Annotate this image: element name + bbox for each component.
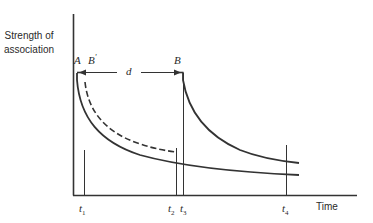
label-b-prime-mark: ' xyxy=(95,53,97,62)
curve-b-prime xyxy=(85,82,176,152)
t3-label: t3 xyxy=(180,202,187,214)
label-d: d xyxy=(126,65,132,77)
t1-label: t1 xyxy=(79,202,86,214)
t2-sub: 2 xyxy=(171,209,175,217)
y-axis-label-line1: Strength of xyxy=(4,29,54,43)
curve-b xyxy=(183,73,299,164)
label-b-prime: B' xyxy=(88,54,96,66)
forgetting-curve-diagram: Strength of association A B' B d t1 t2 t… xyxy=(0,0,373,223)
t4-sub: 4 xyxy=(285,209,289,217)
label-b: B xyxy=(174,54,181,66)
t1-sub: 1 xyxy=(82,209,86,217)
y-axis-label-line2: association xyxy=(4,43,54,57)
y-axis-label: Strength of association xyxy=(4,29,54,57)
diagram-graphics xyxy=(0,0,373,223)
curve-a xyxy=(77,73,299,175)
label-b-prime-letter: B xyxy=(88,54,95,66)
label-a: A xyxy=(74,54,81,66)
t2-label: t2 xyxy=(168,202,175,214)
d-arrow-right-head-icon xyxy=(174,70,181,76)
t4-label: t4 xyxy=(282,202,289,214)
x-axis-label: Time xyxy=(316,201,338,212)
d-arrow-left-head-icon xyxy=(79,70,86,76)
t3-sub: 3 xyxy=(183,209,187,217)
